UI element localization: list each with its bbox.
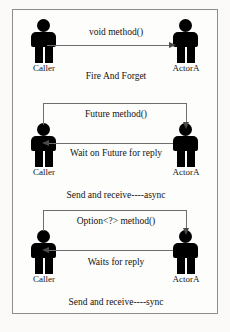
message-line-void-method (47, 45, 171, 46)
arrowhead-down-future-method (183, 122, 189, 129)
actor-label-actora: ActorA (158, 167, 214, 178)
panel-sync: Caller ActorA Option<?> method() Waits f… (13, 206, 219, 315)
caption-sync: Send and receive----sync (13, 296, 219, 308)
actor-label-caller: Caller (16, 167, 72, 178)
arrowhead-down-option-method (183, 228, 189, 235)
message-line-waits-for-reply (49, 250, 173, 251)
person-icon (169, 123, 203, 167)
caption-fire-and-forget: Fire And Forget (13, 70, 219, 82)
person-leg-left (177, 46, 185, 63)
person-head (37, 230, 50, 243)
message-label-waits-for-reply: Waits for reply (13, 256, 219, 268)
diagram-canvas: Caller ActorA void method() Fire And For… (0, 0, 230, 332)
panel-async: Caller ActorA Future method() Wait o (13, 98, 219, 210)
caption-async: Send and receive----async (13, 189, 219, 201)
message-label-option-method: Option<?> method() (13, 215, 219, 227)
message-line-option-method-across (43, 210, 186, 211)
person-leg-right (187, 46, 195, 63)
message-line-wait-on-future (49, 143, 173, 144)
message-label-void-method: void method() (13, 26, 219, 38)
message-line-future-method-across (43, 103, 186, 104)
message-label-future-method: Future method() (13, 108, 219, 120)
actor-label-actora: ActorA (158, 274, 214, 285)
arrowhead-left-wait-on-future (42, 140, 49, 146)
actor-label-caller: Caller (16, 274, 72, 285)
diagram-frame: Caller ActorA void method() Fire And For… (12, 9, 218, 314)
person-leg-left (35, 46, 43, 63)
message-label-wait-on-future: Wait on Future for reply (13, 147, 219, 159)
panel-fire-and-forget: Caller ActorA void method() Fire And For… (13, 10, 219, 108)
person-leg-right (45, 46, 53, 63)
arrowhead-right-void-method (169, 42, 176, 48)
arrowhead-left-waits-for-reply (42, 247, 49, 253)
